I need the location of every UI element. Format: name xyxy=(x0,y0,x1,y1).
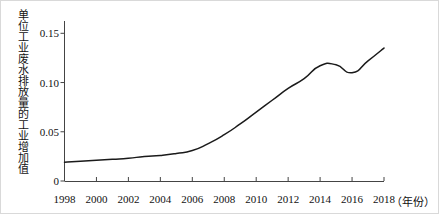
data-series-line xyxy=(65,48,385,162)
x-tick-label: 2000 xyxy=(85,193,107,205)
x-axis-title: （年份） xyxy=(391,193,435,209)
x-tick-label: 2016 xyxy=(341,193,363,205)
x-tick-label: 2004 xyxy=(149,193,171,205)
x-tick-label: 1998 xyxy=(54,193,76,205)
y-tick-label: 0.15 xyxy=(29,27,59,39)
y-tick-label: 0.10 xyxy=(29,77,59,89)
chart-figure: 单位工业废水排放量的工业增加值 0.150.100.050 1998200020… xyxy=(0,0,439,214)
axis-lines xyxy=(65,21,385,182)
x-tick-label: 2006 xyxy=(181,193,203,205)
x-tick-label: 2012 xyxy=(277,193,299,205)
y-tick-label: 0.05 xyxy=(29,126,59,138)
x-tick-label: 2002 xyxy=(117,193,139,205)
x-tick-label: 2014 xyxy=(309,193,331,205)
line-chart-plot xyxy=(1,1,439,214)
x-axis-ticks xyxy=(65,177,385,181)
y-tick-label: 0 xyxy=(29,175,59,187)
x-tick-label: 2008 xyxy=(213,193,235,205)
y-axis-ticks xyxy=(61,33,65,181)
x-tick-label: 2010 xyxy=(245,193,267,205)
